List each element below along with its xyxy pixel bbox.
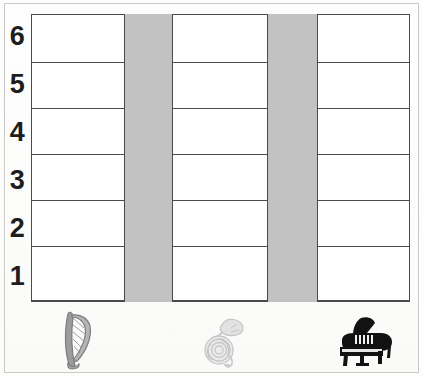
grid-cell[interactable] [173, 245, 267, 293]
grid-cell[interactable] [173, 15, 267, 63]
grid-cell[interactable] [32, 15, 124, 63]
category-icon-harp [31, 304, 125, 370]
grid-cell[interactable] [173, 61, 267, 109]
grid-column-french-horn[interactable] [172, 14, 268, 302]
grid-cell[interactable] [173, 107, 267, 155]
grid-cell[interactable] [318, 199, 409, 247]
axis-label-5: 5 [4, 71, 30, 98]
axis-label-1: 1 [4, 263, 30, 290]
axis-label-6: 6 [4, 23, 30, 50]
chart-grid [31, 14, 410, 302]
axis-label-2: 2 [4, 215, 30, 242]
grid-cell[interactable] [173, 199, 267, 247]
grid-gap-2 [268, 14, 317, 302]
grid-cell[interactable] [318, 245, 409, 293]
grid-cell[interactable] [32, 153, 124, 201]
french-horn-icon [197, 314, 253, 370]
grid-cell[interactable] [318, 107, 409, 155]
grid-cell[interactable] [173, 153, 267, 201]
grid-cell[interactable] [32, 61, 124, 109]
grid-column-harp[interactable] [31, 14, 125, 302]
category-icon-piano [317, 304, 411, 370]
harp-icon [58, 308, 98, 370]
grid-cell[interactable] [318, 61, 409, 109]
grid-cell[interactable] [32, 199, 124, 247]
worksheet-page: 6 5 4 3 2 1 [0, 0, 423, 376]
grid-cell[interactable] [318, 15, 409, 63]
grid-column-piano[interactable] [317, 14, 410, 302]
grid-gap-1 [125, 14, 172, 302]
axis-label-4: 4 [4, 119, 30, 146]
category-icon-french-horn [178, 304, 272, 370]
grid-cell[interactable] [32, 107, 124, 155]
axis-label-3: 3 [4, 167, 30, 194]
grid-cell[interactable] [318, 153, 409, 201]
grid-cell[interactable] [32, 245, 124, 293]
grand-piano-icon [333, 316, 395, 370]
